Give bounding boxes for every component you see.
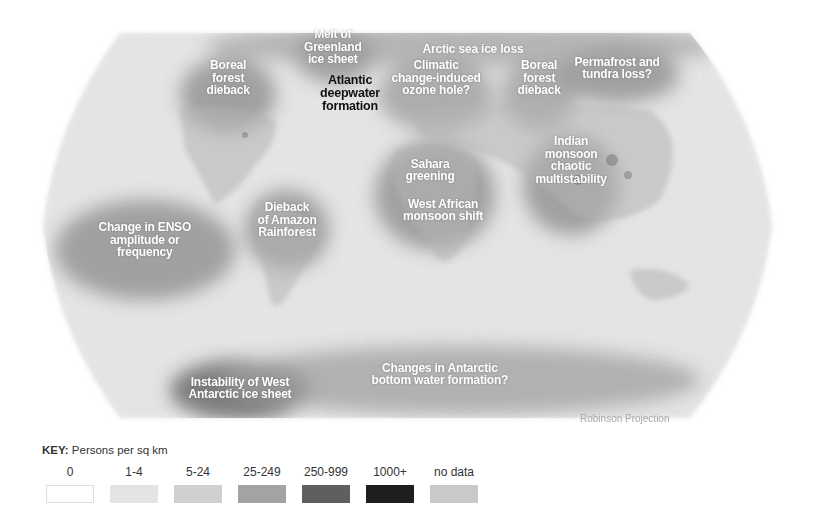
map-label-line: Dieback (258, 201, 317, 214)
map-label-line: dieback (518, 84, 561, 97)
legend-item: 5-24 (166, 464, 230, 503)
legend-label: 25-249 (243, 464, 280, 480)
legend-item: 25-249 (230, 464, 294, 503)
legend-swatch (302, 485, 350, 503)
legend-label: 1000+ (373, 464, 407, 480)
map-label-greenland-melt: Melt ofGreenlandice sheet (304, 28, 362, 66)
map-label-line: ozone hole? (392, 84, 481, 97)
map-label-line: Climatic (392, 59, 481, 72)
map-label-line: tundra loss? (575, 68, 660, 81)
map-label-line: greening (406, 170, 455, 183)
legend-item: 1-4 (102, 464, 166, 503)
map-label-west-antarctic-ice: Instability of WestAntarctic ice sheet (189, 376, 292, 401)
map-label-ozone-hole: Climaticchange-inducedozone hole? (392, 59, 481, 97)
map-label-line: Change in ENSO (99, 221, 192, 234)
legend-label: 5-24 (186, 464, 210, 480)
legend-label: 250-999 (304, 464, 348, 480)
map-label-line: Antarctic ice sheet (189, 388, 292, 401)
legend-swatch (430, 485, 478, 503)
map-label-line: bottom water formation? (372, 374, 509, 387)
legend-swatch (366, 485, 414, 503)
legend-swatch (46, 485, 94, 503)
legend-swatch (110, 485, 158, 503)
map-label-line: frequency (99, 246, 192, 259)
map-label-line: deepwater (320, 87, 380, 100)
map-label-west-african-monsoon: West Africanmonsoon shift (403, 198, 483, 223)
map-label-enso: Change in ENSOamplitude orfrequency (99, 221, 192, 259)
legend-item: 250-999 (294, 464, 358, 503)
map-label-indian-monsoon: Indianmonsoonchaoticmultistability (536, 135, 607, 185)
map-label-arctic-sea-ice: Arctic sea ice loss (423, 43, 524, 56)
map-label-line: Arctic sea ice loss (423, 43, 524, 56)
map-label-line: Rainforest (258, 226, 317, 239)
map-label-boreal-forest-na: Borealforestdieback (207, 59, 250, 97)
legend-key-prefix: KEY: (42, 444, 69, 456)
map-label-line: Melt of (304, 28, 362, 41)
legend-title: KEY: Persons per sq km (42, 444, 168, 456)
map-label-boreal-forest-eurasia: Borealforestdieback (518, 59, 561, 97)
map-label-amazon-dieback: Diebackof AmazonRainforest (258, 201, 317, 239)
map-label-line: formation (320, 100, 380, 113)
legend-swatch (238, 485, 286, 503)
legend-item: 1000+ (358, 464, 422, 503)
legend-item: 0 (38, 464, 102, 503)
legend-label: 1-4 (125, 464, 142, 480)
map-label-line: Boreal (207, 59, 250, 72)
legend-item: no data (422, 464, 486, 503)
projection-label: Robinson Projection (580, 413, 670, 424)
map-label-line: Boreal (518, 59, 561, 72)
map-label-line: monsoon shift (403, 210, 483, 223)
map-label-permafrost: Permafrost andtundra loss? (575, 56, 660, 81)
map-label-line: ice sheet (304, 53, 362, 66)
legend-label: 0 (67, 464, 74, 480)
map-label-line: chaotic (536, 160, 607, 173)
legend-key-title: Persons per sq km (69, 444, 168, 456)
map-label-line: Indian (536, 135, 607, 148)
legend-swatch (174, 485, 222, 503)
map-label-line: multistability (536, 173, 607, 186)
population-density-legend: 0 1-4 5-24 25-249 250-999 1000+ no data (38, 464, 486, 503)
map-label-atlantic-deepwater: Atlanticdeepwaterformation (320, 74, 380, 113)
map-label-sahara-greening: Saharagreening (406, 158, 455, 183)
map-label-line: dieback (207, 84, 250, 97)
legend-label: no data (434, 464, 474, 480)
map-label-line: Atlantic (320, 74, 380, 87)
map-label-antarctic-bottom-water: Changes in Antarcticbottom water formati… (372, 362, 509, 387)
